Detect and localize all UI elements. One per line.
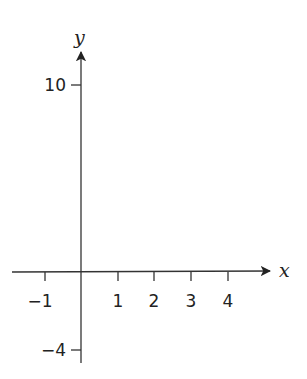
coordinate-plane: −1 1 2 3 4 10 −4 x y: [0, 0, 307, 379]
x-tick-label-neg1: −1: [27, 291, 52, 311]
y-axis-label: y: [73, 26, 85, 48]
x-axis: [12, 271, 270, 272]
x-tick-label-2: 2: [149, 291, 160, 311]
y-tick-label-neg4: −4: [41, 340, 66, 360]
x-axis-label: x: [279, 259, 290, 281]
x-tick-label-4: 4: [223, 291, 234, 311]
y-tick-label-10: 10: [44, 75, 66, 95]
x-ticks: [45, 272, 228, 281]
x-tick-label-1: 1: [113, 291, 124, 311]
x-tick-label-3: 3: [186, 291, 197, 311]
y-ticks: [71, 85, 81, 350]
